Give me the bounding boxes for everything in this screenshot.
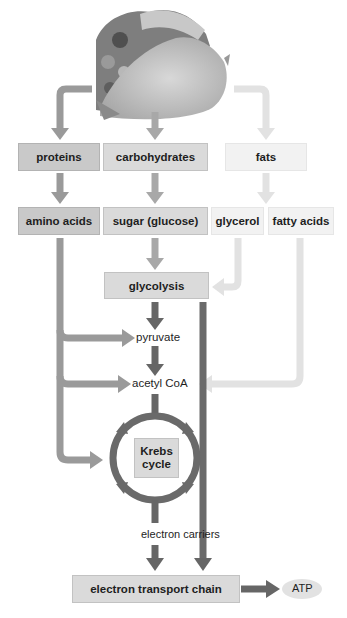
flow-arrows (0, 0, 347, 618)
label-glycolysis: glycolysis (129, 280, 185, 292)
box-carbohydrates: carbohydrates (103, 143, 208, 171)
box-fatty-acids: fatty acids (268, 207, 334, 235)
label-atp: ATP (292, 582, 313, 594)
box-electron-transport-chain: electron transport chain (72, 575, 240, 603)
label-carbohydrates: carbohydrates (116, 151, 195, 163)
label-amino-acids: amino acids (26, 215, 92, 227)
label-krebs: Krebs (140, 445, 173, 458)
label-fats: fats (256, 151, 276, 163)
box-proteins: proteins (18, 143, 100, 171)
arrow-amino-to-acetylcoa (60, 376, 118, 384)
arrow-fattyacids-to-acetylcoa (212, 238, 300, 384)
label-fatty-acids: fatty acids (273, 215, 330, 227)
arrow-taco-to-proteins (60, 89, 92, 128)
label-proteins: proteins (36, 151, 81, 163)
box-glycolysis: glycolysis (104, 272, 209, 299)
label-cycle: cycle (142, 458, 171, 471)
label-pyruvate: pyruvate (136, 331, 180, 343)
box-sugar-glucose: sugar (glucose) (103, 207, 208, 235)
box-fats: fats (225, 143, 307, 171)
box-amino-acids: amino acids (18, 207, 100, 235)
label-electron-carriers: electron carriers (141, 528, 220, 540)
box-krebs-cycle: Krebs cycle (134, 438, 179, 478)
arrow-amino-to-krebs (60, 238, 90, 460)
label-etc: electron transport chain (90, 583, 222, 595)
box-glycerol: glycerol (211, 207, 264, 235)
label-acetyl-coa: acetyl CoA (132, 377, 188, 389)
label-sugar-glucose: sugar (glucose) (113, 215, 199, 227)
arrow-taco-to-fats (234, 89, 266, 128)
label-glycerol: glycerol (215, 215, 259, 227)
arrow-glycerol-to-glycolysis (224, 238, 238, 287)
arrow-amino-to-pyruvate (60, 330, 122, 338)
